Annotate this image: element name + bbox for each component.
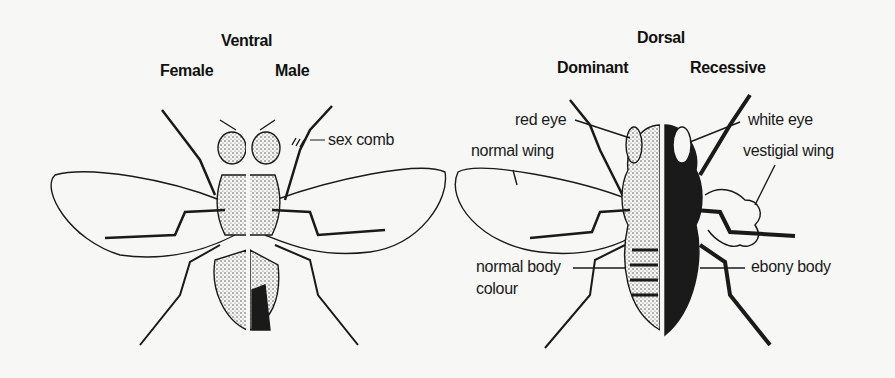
ebony-body-label: ebony body xyxy=(751,258,831,276)
female-label: Female xyxy=(160,62,213,80)
male-label: Male xyxy=(275,62,309,80)
normal-body-colour-label-line1: normal body xyxy=(476,258,561,276)
recessive-label: Recessive xyxy=(690,59,766,77)
dorsal-title: Dorsal xyxy=(637,29,685,47)
vestigial-wing-label: vestigial wing xyxy=(743,142,834,160)
normal-wing-label: normal wing xyxy=(471,142,554,160)
dorsal-fly-illustration xyxy=(455,95,795,348)
normal-body-colour-label-line2: colour xyxy=(476,280,518,298)
sex-comb-label: sex comb xyxy=(328,131,394,149)
ventral-title: Ventral xyxy=(221,32,272,50)
drosophila-diagram xyxy=(0,0,895,378)
dominant-label: Dominant xyxy=(557,59,628,77)
red-eye-label: red eye xyxy=(515,111,566,129)
white-eye-label: white eye xyxy=(748,111,813,129)
